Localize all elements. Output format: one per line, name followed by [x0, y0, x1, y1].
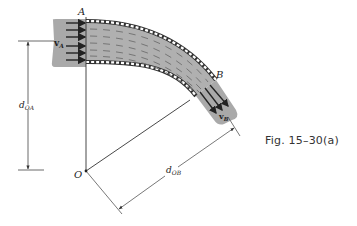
origin-point: [85, 170, 88, 173]
dob-b-extension: [228, 117, 240, 136]
dob-o-extension: [86, 171, 122, 214]
dob-dimension-line: [119, 176, 165, 209]
d-oa-subscript: OA: [25, 104, 35, 111]
figure-caption: Fig. 15–30(a): [265, 134, 339, 147]
d-ob-subscript: OB: [172, 169, 182, 176]
line-o-to-b: [86, 100, 190, 171]
label-d-ob: dOB: [166, 165, 182, 176]
label-o: O: [74, 169, 82, 180]
velocity-a-subscript: A: [58, 42, 64, 49]
label-a: A: [77, 6, 85, 17]
label-d-oa: dOA: [19, 100, 35, 111]
label-b: B: [215, 69, 223, 80]
figure-canvas: A B O vA vB dOA dOB Fig. 15–30(a): [0, 0, 357, 226]
pipe-bend-diagram: A B O vA vB dOA dOB: [0, 0, 357, 226]
velocity-b-subscript: B: [223, 116, 229, 122]
